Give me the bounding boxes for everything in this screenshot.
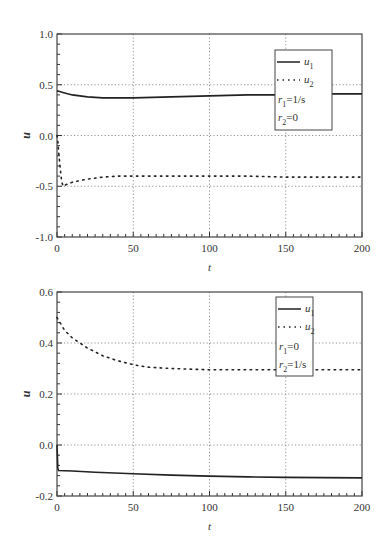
bottom-chart: 050100150200-0.20.00.20.40.6tuu1u2r1=0r2… — [0, 280, 387, 549]
y-axis-label: u — [19, 132, 33, 139]
y-tick-label: 0.4 — [39, 337, 53, 349]
y-tick-label: 0.2 — [39, 388, 53, 400]
top-chart-svg: 050100150200-1.0-0.50.00.51.0tuu1u2r1=1/… — [0, 0, 387, 280]
legend: u1u2r1=1/sr2=0 — [275, 50, 332, 130]
x-tick-label: 0 — [54, 501, 60, 513]
x-tick-label: 100 — [201, 242, 218, 254]
x-tick-label: 150 — [278, 501, 295, 513]
x-axis-label: t — [208, 261, 212, 273]
x-tick-label: 150 — [278, 242, 295, 254]
top-chart: 050100150200-1.0-0.50.00.51.0tuu1u2r1=1/… — [0, 0, 387, 280]
y-tick-label: 0.0 — [39, 439, 53, 451]
y-tick-label: 1.0 — [39, 28, 53, 40]
x-tick-label: 50 — [128, 242, 140, 254]
x-tick-label: 100 — [201, 501, 218, 513]
y-tick-label: 0.0 — [39, 130, 53, 142]
legend: u1u2r1=0r2=1/s — [276, 297, 315, 376]
x-tick-label: 50 — [128, 501, 140, 513]
plot-area — [57, 292, 362, 496]
y-tick-label: -0.2 — [36, 490, 53, 502]
y-tick-label: -0.5 — [36, 180, 54, 192]
y-tick-label: 0.6 — [39, 286, 53, 298]
x-tick-label: 0 — [54, 242, 60, 254]
y-tick-label: -1.0 — [36, 231, 54, 243]
x-tick-label: 200 — [354, 501, 371, 513]
y-axis-label: u — [19, 390, 33, 397]
y-tick-label: 0.5 — [39, 79, 53, 91]
bottom-chart-svg: 050100150200-0.20.00.20.40.6tuu1u2r1=0r2… — [0, 280, 387, 549]
x-tick-label: 200 — [354, 242, 371, 254]
x-axis-label: t — [208, 520, 212, 532]
